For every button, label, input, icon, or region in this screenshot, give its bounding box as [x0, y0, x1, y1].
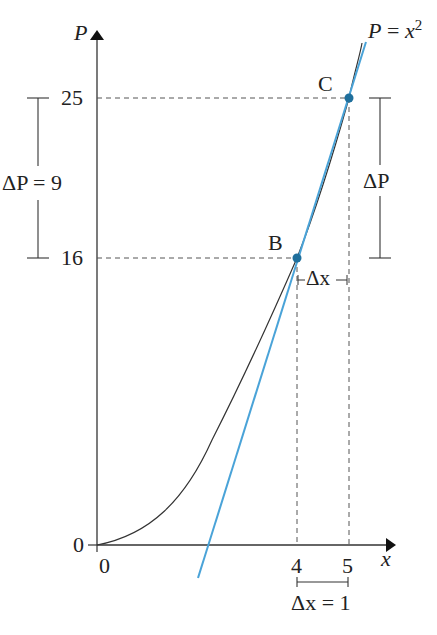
- guide-lines: [97, 98, 349, 545]
- point-b: [293, 254, 302, 263]
- y-tick-0: 0: [73, 534, 84, 556]
- y-tick-25: 25: [61, 87, 83, 109]
- point-b-label: B: [268, 232, 283, 254]
- delta-x-mid-label: Δx: [306, 268, 330, 289]
- point-c: [345, 94, 354, 103]
- delta-p-left-label: ΔP = 9: [2, 172, 62, 194]
- x-tick-0: 0: [99, 555, 110, 577]
- y-axis-arrow-icon: [90, 30, 104, 40]
- y-tick-16: 16: [61, 247, 83, 269]
- x-tick-4: 4: [291, 555, 302, 577]
- curve-p-equals-x-squared: [97, 43, 362, 545]
- delta-x-bottom-label: Δx = 1: [291, 592, 351, 614]
- curve-label: P = x2: [368, 18, 422, 42]
- delta-p-right-label: ΔP: [363, 170, 389, 192]
- x-tick-5: 5: [342, 555, 353, 577]
- secant-line-bc: [198, 42, 366, 578]
- y-axis-label: P: [74, 22, 87, 44]
- point-c-label: C: [318, 73, 333, 95]
- delta-x-bottom-bracket: [297, 577, 348, 587]
- x-axis-label: x: [381, 548, 391, 570]
- chart-root: P x 25 16 0 0 4 5 B C P = x2 ΔP = 9 ΔP Δ…: [0, 0, 437, 635]
